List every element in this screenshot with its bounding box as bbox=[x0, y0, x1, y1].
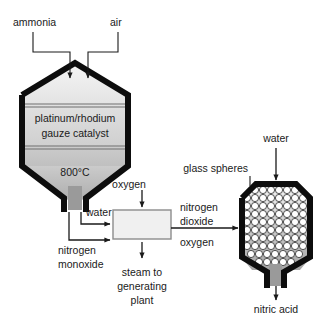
steam-label-line3: plant bbox=[131, 294, 154, 306]
temperature-label: 800°C bbox=[60, 166, 90, 178]
steam-label-line2: generating bbox=[117, 280, 167, 292]
catalyst-label-line1: platinum/rhodium bbox=[35, 112, 116, 124]
process-flow-diagram: ammonia air platinum/rhodium gauze catal… bbox=[0, 0, 330, 319]
reactor-outlet-neck-fill bbox=[68, 186, 82, 210]
glass-spheres-label: glass spheres bbox=[183, 162, 248, 174]
oxygen-right-label: oxygen bbox=[180, 236, 214, 248]
nitric-acid-label: nitric acid bbox=[254, 303, 299, 315]
nitrogen-monoxide-label-line2: monoxide bbox=[58, 258, 104, 270]
exchanger-to-absorber-piping: nitrogen dioxide oxygen bbox=[171, 201, 238, 248]
nitrogen-monoxide-label-line1: nitrogen bbox=[58, 244, 96, 256]
air-label: air bbox=[110, 16, 122, 28]
water-absorber-label: water bbox=[262, 132, 289, 144]
heat-exchanger: oxygen steam to generating plant bbox=[112, 178, 171, 306]
ammonia-label: ammonia bbox=[13, 16, 56, 28]
heat-exchanger-box bbox=[113, 210, 171, 239]
oxygen-top-label: oxygen bbox=[112, 178, 146, 190]
nitrogen-dioxide-label-line1: nitrogen bbox=[180, 201, 218, 213]
nitrogen-dioxide-label-line2: dioxide bbox=[180, 215, 213, 227]
absorber-outlet-neck-fill bbox=[269, 264, 282, 286]
steam-label-line1: steam to bbox=[122, 266, 162, 278]
catalyst-label-line2: gauze catalyst bbox=[41, 127, 108, 139]
reactor-to-exchanger-piping: water nitrogen monoxide bbox=[58, 206, 112, 270]
water-reactor-label: water bbox=[85, 206, 112, 218]
diagram-canvas: ammonia air platinum/rhodium gauze catal… bbox=[0, 0, 330, 319]
